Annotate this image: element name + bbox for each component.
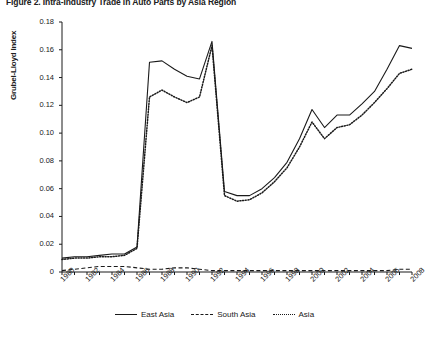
y-tick-label: 0.08 [28, 157, 54, 165]
y-tick-label: 0.10 [28, 129, 54, 137]
series-line-east-asia [62, 41, 412, 258]
chart-figure: Figure 2. Intra-Industry Trade in Auto P… [0, 0, 429, 337]
legend-swatch-dotted-icon [273, 311, 295, 318]
y-axis-label: Grubel-Lloyd Index [9, 31, 18, 100]
y-tick-label: 0.06 [28, 185, 54, 193]
legend-label: East Asia [141, 310, 174, 319]
series-line-asia [62, 46, 412, 260]
chart-legend: East AsiaSouth AsiaAsia [0, 310, 429, 319]
legend-label: South Asia [217, 310, 255, 319]
y-tick-label: 0.02 [28, 240, 54, 248]
y-tick-label: 0.12 [28, 101, 54, 109]
y-tick-label: 0.14 [28, 74, 54, 82]
plot-area [0, 0, 429, 337]
legend-item: Asia [273, 310, 315, 319]
legend-label: Asia [299, 310, 315, 319]
legend-item: South Asia [191, 310, 255, 319]
y-tick-label: 0 [28, 268, 54, 276]
y-tick-label: 0.18 [28, 18, 54, 26]
legend-item: East Asia [115, 310, 174, 319]
legend-swatch-dashed-icon [191, 311, 213, 318]
legend-swatch-solid-icon [115, 311, 137, 318]
y-tick-label: 0.04 [28, 212, 54, 220]
chart-title: Figure 2. Intra-Industry Trade in Auto P… [6, 0, 426, 8]
y-tick-label: 0.16 [28, 46, 54, 54]
